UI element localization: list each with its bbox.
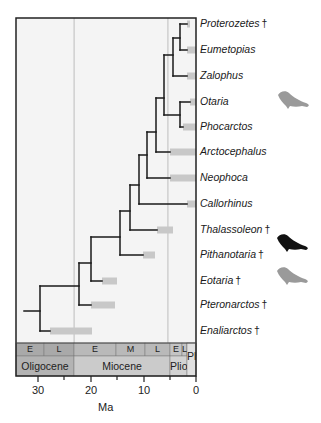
tick-label: 30 — [23, 384, 53, 396]
range-bar — [170, 149, 196, 156]
range-bar — [102, 278, 117, 285]
taxon-label: Callorhinus — [200, 197, 253, 209]
taxon-name: Phocarctos — [200, 120, 253, 132]
subepoch-label: M — [116, 343, 145, 356]
taxon-label: Arctocephalus — [200, 145, 267, 157]
taxon-name: Eotaria — [200, 274, 233, 286]
taxon-name: Pteronarctos — [200, 298, 260, 310]
epoch-label: Plio — [170, 356, 187, 376]
subepoch-label: E — [16, 343, 44, 356]
range-bar — [50, 328, 92, 335]
range-bar — [187, 73, 196, 80]
taxon-label: Eotaria† — [200, 274, 241, 286]
range-bar — [170, 175, 196, 182]
extinct-dagger-icon: † — [262, 17, 268, 29]
fur-seal-black-icon — [277, 234, 308, 252]
taxon-label: Otaria — [200, 95, 229, 107]
phylogeny-figure: Proterozetes†EumetopiasZalophusOtariaPho… — [0, 0, 321, 423]
taxon-label: Enaliarctos† — [200, 324, 260, 336]
extinct-dagger-icon: † — [254, 324, 260, 336]
tick-label: 0 — [181, 384, 211, 396]
extinct-dagger-icon: † — [264, 223, 270, 235]
taxon-name: Enaliarctos — [200, 324, 252, 336]
seal-silhouette-icon — [277, 267, 308, 285]
axis-title: Ma — [98, 401, 113, 413]
taxon-name: Proterozetes — [200, 17, 260, 29]
range-bar — [183, 124, 196, 131]
taxon-label: Phocarctos — [200, 120, 253, 132]
seal-silhouette-icon — [278, 91, 309, 109]
taxon-name: Callorhinus — [200, 197, 253, 209]
tick-label: 10 — [129, 384, 159, 396]
taxon-name: Neophoca — [200, 171, 248, 183]
tick-label: 20 — [76, 384, 106, 396]
subepoch-label: E — [74, 343, 116, 356]
taxon-name: Otaria — [200, 95, 229, 107]
subepoch-label: L — [44, 343, 74, 356]
taxon-label: Proterozetes† — [200, 17, 267, 29]
taxon-name: Eumetopias — [200, 43, 255, 55]
range-bar — [187, 201, 196, 208]
extinct-dagger-icon: † — [262, 298, 268, 310]
taxon-label: Eumetopias — [200, 43, 255, 55]
taxon-name: Zalophus — [200, 69, 243, 81]
taxon-name: Arctocephalus — [200, 145, 267, 157]
range-bar — [157, 227, 173, 234]
range-bar — [190, 99, 196, 106]
extinct-dagger-icon: † — [235, 274, 241, 286]
sea-lion-grey-top-icon — [278, 91, 309, 109]
range-bar — [143, 252, 155, 259]
subepoch-label: L — [145, 343, 170, 356]
epoch-label: Oligocene — [16, 356, 74, 376]
seal-silhouette-icon — [277, 234, 308, 252]
taxon-name: Pithanotaria — [200, 248, 256, 260]
taxon-label: Pteronarctos† — [200, 298, 267, 310]
taxon-label: Thalassoleon† — [200, 223, 270, 235]
taxon-label: Zalophus — [200, 69, 243, 81]
taxon-name: Thalassoleon — [200, 223, 262, 235]
extinct-dagger-icon: † — [258, 248, 264, 260]
subepoch-label: E — [170, 343, 182, 356]
taxon-label: Pithanotaria† — [200, 248, 264, 260]
range-bar — [187, 47, 196, 54]
epoch-label: Pl — [187, 349, 196, 363]
plot-background — [16, 18, 196, 343]
taxon-label: Neophoca — [200, 171, 248, 183]
range-bar — [91, 302, 115, 309]
sea-lion-grey-bottom-icon — [277, 267, 308, 285]
epoch-label: Miocene — [74, 356, 170, 376]
